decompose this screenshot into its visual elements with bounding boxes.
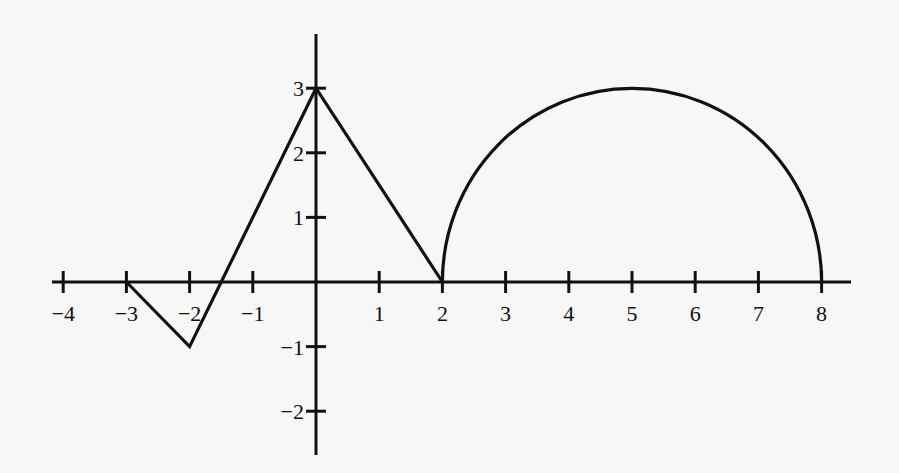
function-graph: −4−3−2−112345678321−1−2 xyxy=(0,0,899,473)
ticks xyxy=(63,88,821,411)
piecewise-line xyxy=(126,88,442,346)
x-tick-label: 1 xyxy=(374,301,385,326)
x-tick-label: 2 xyxy=(437,301,448,326)
y-tick-label: 3 xyxy=(293,76,304,101)
y-tick-label: −2 xyxy=(281,399,304,424)
graph-curves xyxy=(126,88,821,346)
semicircle-arc xyxy=(442,88,821,282)
x-tick-label: −2 xyxy=(178,301,201,326)
y-tick-label: 2 xyxy=(293,141,304,166)
x-tick-label: −4 xyxy=(51,301,74,326)
x-tick-label: −1 xyxy=(241,301,264,326)
tick-labels: −4−3−2−112345678321−1−2 xyxy=(51,76,827,424)
x-tick-label: 7 xyxy=(753,301,764,326)
x-tick-label: 4 xyxy=(563,301,574,326)
x-tick-label: 5 xyxy=(627,301,638,326)
x-tick-label: 3 xyxy=(500,301,511,326)
y-tick-label: 1 xyxy=(293,205,304,230)
x-tick-label: 8 xyxy=(816,301,827,326)
x-tick-label: −3 xyxy=(115,301,138,326)
y-tick-label: −1 xyxy=(281,335,304,360)
axes xyxy=(52,34,851,455)
x-tick-label: 6 xyxy=(690,301,701,326)
